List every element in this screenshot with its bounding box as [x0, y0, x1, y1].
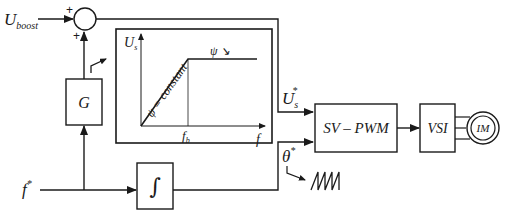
vsi-label: VSI	[427, 121, 449, 136]
vf-flat-label: ψ ↘	[210, 44, 230, 58]
theta-ref-label: θ*	[282, 145, 295, 166]
induction-motor: IM	[467, 112, 499, 144]
us-ref-label: Us*	[282, 85, 298, 110]
gain-label: G	[78, 94, 90, 111]
sum-sign-left: +	[73, 29, 80, 43]
sawtooth-pointer-arrow-icon	[287, 166, 305, 180]
vf-control-diagram: Uboost + + Us* G Us f fb ψ = constant ψ …	[0, 0, 512, 219]
summing-junction: + +	[66, 3, 96, 43]
u-boost-label: Uboost	[4, 10, 38, 31]
motor-label: IM	[476, 122, 491, 134]
sum-sign-top: +	[66, 3, 73, 17]
u-boost-input: Uboost	[4, 10, 73, 31]
f-ref-label: f*	[22, 178, 32, 199]
variable-gain-arrow-icon	[91, 59, 106, 73]
vf-curve-panel: Us f fb ψ = constant ψ ↘	[116, 29, 272, 147]
svpwm-label: SV – PWM	[323, 120, 390, 136]
integrator-label: ∫	[149, 174, 161, 199]
sawtooth-waveform-icon	[311, 172, 339, 190]
